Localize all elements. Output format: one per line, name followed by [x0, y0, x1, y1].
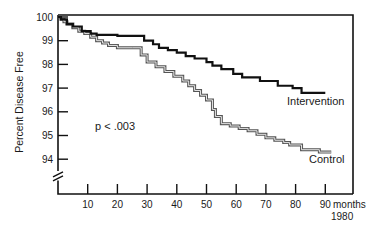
axis-break-icon [53, 172, 63, 181]
y-axis-ticks: 949596979899100 [36, 12, 68, 165]
y-tick-label: 96 [42, 106, 54, 117]
y-tick-label: 99 [42, 35, 54, 46]
x-tick-label: 50 [201, 199, 213, 210]
y-tick-label: 100 [36, 12, 53, 23]
y-tick-label: 95 [42, 130, 54, 141]
p-value-annotation: p < .003 [95, 120, 135, 132]
y-tick-label: 94 [42, 154, 54, 165]
x-tick-label: 20 [112, 199, 124, 210]
x-unit-label: months [333, 199, 366, 210]
series-intervention-line [58, 17, 325, 93]
x-axis-ticks: 102030405060708090 [82, 184, 331, 210]
control-label: Control [309, 153, 344, 165]
x-year-label: 1980 [331, 211, 354, 222]
x-tick-label: 30 [142, 199, 154, 210]
survival-chart: 949596979899100 102030405060708090 Perce… [0, 0, 375, 226]
x-tick-label: 40 [171, 199, 183, 210]
intervention-label: Intervention [287, 95, 344, 107]
x-tick-label: 90 [320, 199, 332, 210]
x-tick-label: 80 [290, 199, 302, 210]
y-tick-label: 98 [42, 59, 54, 70]
x-tick-label: 10 [82, 199, 94, 210]
y-axis-label: Percent Disease Free [13, 51, 25, 153]
x-tick-label: 70 [260, 199, 272, 210]
y-tick-label: 97 [42, 83, 54, 94]
x-tick-label: 60 [231, 199, 243, 210]
